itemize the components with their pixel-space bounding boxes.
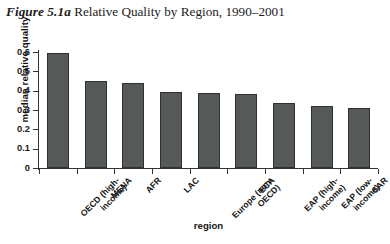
- x-tick: [303, 169, 304, 174]
- figure-title-text: Relative Quality by Region, 1990–2001: [74, 4, 285, 19]
- x-axis-label: SAR: [370, 176, 390, 196]
- y-tick-label: 0.1: [17, 142, 30, 154]
- x-tick: [190, 169, 191, 174]
- bar[interactable]: [122, 83, 144, 168]
- x-tick: [378, 169, 379, 174]
- bar[interactable]: [85, 81, 107, 168]
- y-tick-label: 0.5: [17, 65, 30, 77]
- y-tick-label: 0.4: [17, 84, 30, 96]
- bar[interactable]: [198, 93, 220, 168]
- x-tick: [227, 169, 228, 174]
- x-tick: [77, 169, 78, 174]
- y-tick-label: 0: [25, 162, 30, 174]
- plot-area: [39, 52, 378, 168]
- bar[interactable]: [160, 92, 182, 168]
- bar[interactable]: [235, 94, 257, 168]
- bar-chart: median relative quality region 00.10.20.…: [0, 24, 382, 244]
- y-tick-label: 0.6: [17, 46, 30, 58]
- x-axis-label: AFR: [144, 176, 163, 195]
- x-tick: [39, 169, 40, 174]
- x-tick: [152, 169, 153, 174]
- y-tick-label: 0.2: [17, 123, 30, 135]
- figure-number: Figure 5.1a: [6, 4, 71, 19]
- y-tick-label: 0.3: [17, 104, 30, 116]
- x-axis-line: [38, 168, 378, 169]
- bar[interactable]: [348, 108, 370, 168]
- bar[interactable]: [311, 106, 333, 168]
- x-tick: [114, 169, 115, 174]
- bar[interactable]: [47, 53, 69, 168]
- x-axis-label-line: AFR: [144, 176, 163, 195]
- x-tick: [265, 169, 266, 174]
- x-tick: [340, 169, 341, 174]
- x-axis-label: LAC: [182, 176, 201, 195]
- x-axis-label-line: LAC: [182, 176, 201, 195]
- x-axis-label-line: SAR: [370, 176, 390, 196]
- x-axis-label: EAP (high-income): [303, 176, 348, 221]
- bar[interactable]: [273, 103, 295, 168]
- figure-title: Figure 5.1a Relative Quality by Region, …: [6, 4, 378, 20]
